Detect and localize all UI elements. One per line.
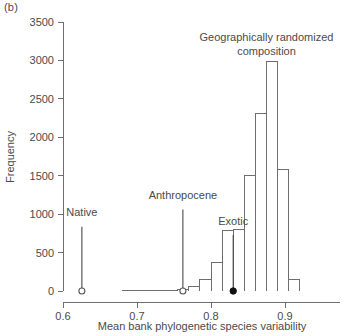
histogram-bar xyxy=(278,169,289,291)
histogram-plot: 0500100015002000250030003500 0.60.70.80.… xyxy=(0,0,345,336)
histogram-bar xyxy=(244,175,255,291)
y-axis-title: Frequency xyxy=(4,131,16,183)
x-axis-title: Mean bank phylogenetic species variabili… xyxy=(98,320,307,332)
y-tick-label: 3500 xyxy=(30,16,54,28)
figure-panel-b: (b) 0500100015002000250030003500 0.60.70… xyxy=(0,0,345,336)
histogram-bar xyxy=(200,279,211,291)
histogram-bar xyxy=(255,113,266,291)
axes xyxy=(63,22,340,302)
histogram-bar xyxy=(233,230,244,291)
histogram-bar xyxy=(289,279,300,291)
histogram-bar xyxy=(156,290,167,291)
histogram-bar xyxy=(167,290,178,291)
histogram-bar xyxy=(211,262,222,291)
chart-annotations: NativeAnthropoceneExoticGeographically r… xyxy=(66,31,333,294)
y-tick-label: 3000 xyxy=(30,54,54,66)
y-tick-label: 2000 xyxy=(30,131,54,143)
marker-anthropocene xyxy=(180,288,186,294)
annotation-label-exotic: Exotic xyxy=(218,215,248,227)
annotation-caption-line1: Geographically randomized xyxy=(200,31,334,43)
y-axis-ticks: 0500100015002000250030003500 xyxy=(30,16,63,297)
histogram-bar xyxy=(144,290,155,291)
histogram-bar xyxy=(267,61,278,291)
y-tick-label: 0 xyxy=(48,285,54,297)
y-tick-label: 1000 xyxy=(30,208,54,220)
histogram-bar xyxy=(189,287,200,291)
x-axis-ticks: 0.60.70.80.9 xyxy=(55,302,292,322)
y-tick-label: 2500 xyxy=(30,93,54,105)
annotation-caption-line2: composition xyxy=(237,45,296,57)
marker-exotic xyxy=(230,288,236,294)
y-tick-label: 1500 xyxy=(30,170,54,182)
x-tick-label: 0.6 xyxy=(55,310,70,322)
y-tick-label: 500 xyxy=(36,247,54,259)
marker-native xyxy=(79,288,85,294)
histogram-bars xyxy=(122,61,300,291)
histogram-bar xyxy=(222,230,233,291)
annotation-label-native: Native xyxy=(66,206,97,218)
annotation-label-anthropocene: Anthropocene xyxy=(149,189,218,201)
